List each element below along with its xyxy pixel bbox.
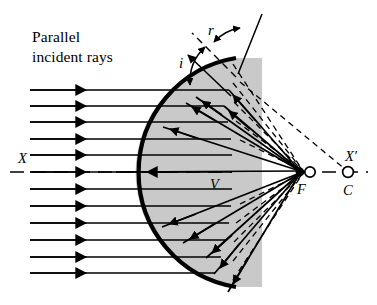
caption-line-2: incident rays [32,48,113,65]
axis-left-label: X [18,150,27,166]
angle-of-reflection-label: r [208,22,214,39]
caption-line-1: Parallel [32,28,80,45]
center-of-curvature-marker [343,167,354,178]
angle-of-incidence-label: i [179,55,183,72]
vertex-label: V [210,176,219,192]
center-of-curvature-label: C [343,182,353,198]
optics-reflection-diagram: Parallel incident rays i r X X′ V F C [0,0,377,305]
axis-right-label: X′ [345,148,357,164]
focus-label: F [297,181,306,197]
focal-point-marker [296,167,316,177]
diagram-canvas [0,0,377,305]
